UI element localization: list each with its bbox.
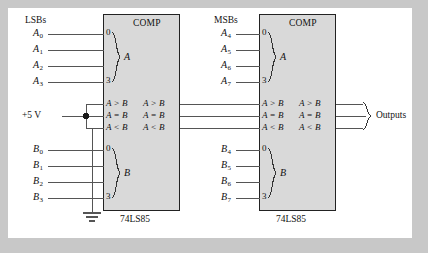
signal-label-b6: B6 bbox=[221, 176, 231, 188]
lsb-cascout-aeqb: A = B bbox=[143, 111, 164, 120]
signal-label-a4: A4 bbox=[221, 28, 231, 40]
supply-label: +5 V bbox=[22, 111, 41, 121]
circuit-svg bbox=[0, 0, 428, 253]
lsb-a-pin-top: 0 bbox=[106, 28, 111, 37]
msb-cascin-agtb: A > B bbox=[262, 99, 283, 108]
msb-cascout-agtb: A > B bbox=[299, 99, 320, 108]
signal-label-a0: A0 bbox=[33, 28, 43, 40]
lsb-cascin-aeqb: A = B bbox=[106, 111, 127, 120]
signal-label-a5: A5 bbox=[221, 44, 231, 56]
lsb-b-pin-bottom: 3 bbox=[106, 192, 111, 201]
signal-label-a6: A6 bbox=[221, 60, 231, 72]
msb-cascout-aeqb: A = B bbox=[299, 111, 320, 120]
junction-dot-plus5v bbox=[83, 113, 89, 119]
circuit-diagram-figure: LSBs MSBs Outputs +5 V COMP 0 3 A 0 3 B … bbox=[0, 0, 428, 253]
msb-a-group-label: A bbox=[280, 52, 286, 62]
lsb-cascin-agtb: A > B bbox=[106, 99, 127, 108]
signal-label-b1: B1 bbox=[33, 160, 43, 172]
lsb-chip-name: 74LS85 bbox=[120, 215, 150, 225]
signal-label-b0: B0 bbox=[33, 144, 43, 156]
signal-label-b2: B2 bbox=[33, 176, 43, 188]
msbs-label: MSBs bbox=[214, 16, 238, 26]
msb-comp-title: COMP bbox=[289, 19, 317, 29]
msb-cascout-altb: A < B bbox=[299, 123, 320, 132]
msb-cascin-altb: A < B bbox=[262, 123, 283, 132]
signal-label-b4: B4 bbox=[221, 144, 231, 156]
msb-chip-name: 74LS85 bbox=[276, 215, 306, 225]
lsb-cascout-agtb: A > B bbox=[143, 99, 164, 108]
signal-label-a1: A1 bbox=[33, 44, 43, 56]
msb-a-pin-top: 0 bbox=[262, 28, 267, 37]
msb-b-group-label: B bbox=[280, 168, 286, 178]
signal-label-a3: A3 bbox=[33, 76, 43, 88]
signal-label-b7: B7 bbox=[221, 192, 231, 204]
lsbs-label: LSBs bbox=[25, 16, 46, 26]
lsb-a-group-label: A bbox=[124, 52, 130, 62]
lsb-cascout-altb: A < B bbox=[143, 123, 164, 132]
lsb-comp-title: COMP bbox=[133, 19, 161, 29]
msb-cascin-aeqb: A = B bbox=[262, 111, 283, 120]
signal-label-b3: B3 bbox=[33, 192, 43, 204]
lsb-a-pin-bottom: 3 bbox=[106, 76, 111, 85]
outputs-label: Outputs bbox=[376, 111, 406, 121]
lsb-b-pin-top: 0 bbox=[106, 144, 111, 153]
signal-label-a7: A7 bbox=[221, 76, 231, 88]
msb-a-pin-bottom: 3 bbox=[262, 76, 267, 85]
signal-label-b5: B5 bbox=[221, 160, 231, 172]
msb-b-pin-top: 0 bbox=[262, 144, 267, 153]
lsb-cascin-altb: A < B bbox=[106, 123, 127, 132]
lsb-b-group-label: B bbox=[124, 168, 130, 178]
signal-label-a2: A2 bbox=[33, 60, 43, 72]
msb-b-pin-bottom: 3 bbox=[262, 192, 267, 201]
